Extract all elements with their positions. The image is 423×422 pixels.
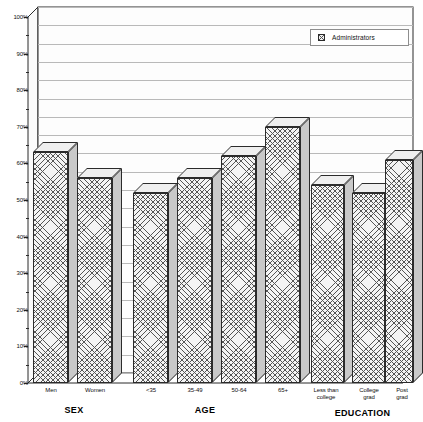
x-label-35-49: 35-49 [172,387,218,394]
group-label-education: EDUCATION [315,408,410,418]
x-label-50-64: 50-64 [216,387,262,394]
x-label-under-35: <35 [128,387,174,394]
group-label-age: AGE [170,405,240,415]
x-label-post-grad: Post grad [385,387,419,401]
x-label-65-plus: 65+ [260,387,306,394]
x-label-men: Men [29,387,73,394]
x-label-women: Women [71,387,119,394]
x-label-less-than-college: Less than college [302,387,350,401]
group-label-sex: SEX [39,405,109,415]
